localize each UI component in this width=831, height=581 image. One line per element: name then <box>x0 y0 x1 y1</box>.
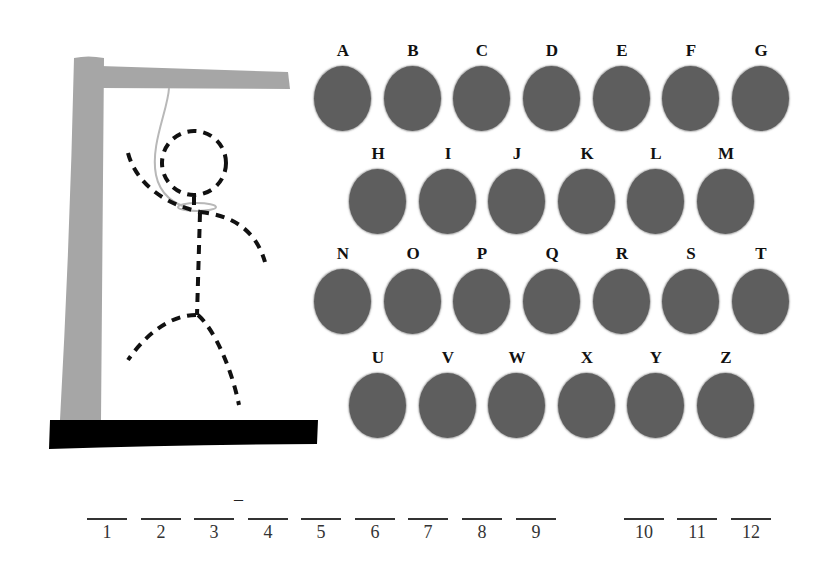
letter-label: B <box>383 42 443 60</box>
letter-label: C <box>452 42 512 60</box>
letter-disc[interactable] <box>593 66 650 131</box>
letter-key-v[interactable]: V <box>418 349 478 437</box>
blank-slot-9: 9 <box>516 514 556 554</box>
letter-key-w[interactable]: W <box>487 349 547 437</box>
letter-label: I <box>418 145 478 163</box>
letter-key-m[interactable]: M <box>696 145 756 233</box>
letter-label: V <box>418 349 478 367</box>
blank-number: 3 <box>194 522 234 543</box>
letter-disc[interactable] <box>314 66 371 131</box>
letter-disc[interactable] <box>627 169 684 234</box>
letter-disc[interactable] <box>697 373 754 438</box>
letter-key-l[interactable]: L <box>626 145 686 233</box>
letter-key-o[interactable]: O <box>383 245 443 333</box>
letter-disc[interactable] <box>488 373 545 438</box>
letter-disc[interactable] <box>384 66 441 131</box>
letter-key-c[interactable]: C <box>452 42 512 130</box>
letter-label: Q <box>522 245 582 263</box>
letter-disc[interactable] <box>662 269 719 334</box>
letter-label: A <box>313 42 373 60</box>
letter-key-a[interactable]: A <box>313 42 373 130</box>
letter-key-e[interactable]: E <box>592 42 652 130</box>
letter-key-u[interactable]: U <box>348 349 408 437</box>
letter-key-y[interactable]: Y <box>626 349 686 437</box>
letter-key-n[interactable]: N <box>313 245 373 333</box>
letter-label: O <box>383 245 443 263</box>
letter-key-d[interactable]: D <box>522 42 582 130</box>
blank-line <box>87 518 127 520</box>
blank-number: 6 <box>355 522 395 543</box>
letter-key-g[interactable]: G <box>731 42 791 130</box>
gallows-beam <box>100 66 290 89</box>
letter-key-k[interactable]: K <box>557 145 617 233</box>
letter-disc[interactable] <box>627 373 684 438</box>
blank-number: 10 <box>624 522 664 543</box>
letter-disc[interactable] <box>558 373 615 438</box>
blank-slot-5: 5 <box>301 514 341 554</box>
letter-label: X <box>557 349 617 367</box>
gallows-base <box>49 420 318 449</box>
hangman-right-leg <box>198 315 239 405</box>
letter-label: J <box>487 145 547 163</box>
letter-disc[interactable] <box>662 66 719 131</box>
letter-label: U <box>348 349 408 367</box>
letter-key-s[interactable]: S <box>661 245 721 333</box>
hangman-left-leg <box>128 315 196 360</box>
blank-line <box>408 518 448 520</box>
blank-number: 2 <box>141 522 181 543</box>
letter-disc[interactable] <box>523 269 580 334</box>
hangman-right-arm <box>200 212 265 262</box>
letter-key-i[interactable]: I <box>418 145 478 233</box>
letter-label: M <box>696 145 756 163</box>
rope <box>155 88 190 208</box>
blank-slot-3: 3 <box>194 514 234 554</box>
letter-label: P <box>452 245 512 263</box>
blank-number: 5 <box>301 522 341 543</box>
letter-disc[interactable] <box>488 169 545 234</box>
letter-disc[interactable] <box>453 66 510 131</box>
letter-label: Z <box>696 349 756 367</box>
letter-key-z[interactable]: Z <box>696 349 756 437</box>
letter-disc[interactable] <box>593 269 650 334</box>
letter-disc[interactable] <box>732 269 789 334</box>
letter-disc[interactable] <box>697 169 754 234</box>
letter-key-f[interactable]: F <box>661 42 721 130</box>
letter-disc[interactable] <box>419 373 476 438</box>
blank-slot-1: 1 <box>87 514 127 554</box>
blank-slot-12: 12 <box>731 514 771 554</box>
letter-key-t[interactable]: T <box>731 245 791 333</box>
letter-disc[interactable] <box>453 269 510 334</box>
letter-key-j[interactable]: J <box>487 145 547 233</box>
blank-mark: – <box>234 494 243 504</box>
blank-number: 9 <box>516 522 556 543</box>
letter-disc[interactable] <box>558 169 615 234</box>
letter-key-h[interactable]: H <box>348 145 408 233</box>
letter-key-r[interactable]: R <box>592 245 652 333</box>
letter-disc[interactable] <box>349 373 406 438</box>
letter-label: N <box>313 245 373 263</box>
letter-disc[interactable] <box>314 269 371 334</box>
letter-label: W <box>487 349 547 367</box>
letter-disc[interactable] <box>384 269 441 334</box>
blank-number: 4 <box>248 522 288 543</box>
letter-key-p[interactable]: P <box>452 245 512 333</box>
letter-label: E <box>592 42 652 60</box>
letter-disc[interactable] <box>523 66 580 131</box>
letter-disc[interactable] <box>419 169 476 234</box>
letter-key-x[interactable]: X <box>557 349 617 437</box>
letter-disc[interactable] <box>732 66 789 131</box>
letter-disc[interactable] <box>349 169 406 234</box>
blank-slot-6: 6 <box>355 514 395 554</box>
letter-label: L <box>626 145 686 163</box>
blank-slot-2: 2 <box>141 514 181 554</box>
blank-number: 11 <box>677 522 717 543</box>
blank-line <box>624 518 664 520</box>
letter-key-q[interactable]: Q <box>522 245 582 333</box>
blank-line <box>301 518 341 520</box>
blank-line <box>141 518 181 520</box>
letter-label: H <box>348 145 408 163</box>
letter-key-b[interactable]: B <box>383 42 443 130</box>
letter-label: F <box>661 42 721 60</box>
letter-label: D <box>522 42 582 60</box>
blank-number: 8 <box>462 522 502 543</box>
